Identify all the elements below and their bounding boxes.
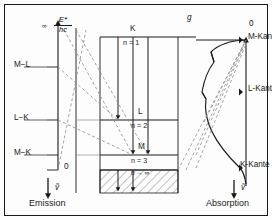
shell-n-l: n = 2 — [131, 122, 147, 129]
zero-label-right: 0 — [249, 20, 254, 28]
dashed-left-3 — [64, 30, 133, 155]
dashed-left-5 — [58, 120, 133, 155]
continuum-label: n → ∞ — [131, 170, 149, 176]
xray-level-diagram: E* hc ∞ M−L L−K M−K 0 ṽ Emission K n = 1… — [0, 0, 272, 220]
zero-label-left: 0 — [64, 163, 69, 171]
edge-marker-m — [239, 36, 243, 43]
emission-caption: Emission — [29, 199, 66, 208]
dashed-right-1 — [178, 40, 246, 170]
edge-riser-m — [211, 52, 214, 62]
infinity-tick-label: ∞ — [42, 23, 47, 29]
absorption-caption: Absorption — [206, 199, 249, 208]
tick-label-mk: M−K — [14, 149, 31, 157]
shell-n-k: n = 1 — [123, 39, 139, 46]
shell-n-m: n = 3 — [131, 157, 147, 164]
energy-axis-denominator: hc — [54, 25, 72, 34]
dashed-right-3 — [196, 44, 246, 168]
diagram-canvas — [0, 0, 272, 220]
edge-label-k: K-Kante — [240, 161, 270, 169]
tick-label-ml: M−L — [14, 61, 30, 69]
dashed-left-1 — [58, 30, 86, 170]
tick-label-lk: L−K — [14, 114, 29, 122]
absorption-curve-label: g — [187, 14, 192, 22]
dashed-right-2 — [186, 40, 246, 170]
absorption-arrow-label: ṽ — [241, 184, 245, 192]
edge-riser-l — [202, 92, 206, 99]
shell-label-k: K — [130, 25, 135, 33]
energy-axis-label: E* hc — [54, 9, 72, 34]
dashed-right-5 — [204, 44, 244, 122]
edge-riser-k — [240, 168, 246, 184]
emission-arrow-label: ṽ — [55, 184, 59, 192]
shell-label-l: L — [138, 108, 143, 116]
absorption-curve — [202, 40, 246, 168]
dashed-right-4 — [196, 46, 244, 155]
shell-label-m: M — [138, 143, 145, 151]
edge-label-l: L-Kante — [248, 85, 272, 93]
edge-marker-l — [239, 88, 243, 95]
edge-label-m: M-Kante — [248, 33, 272, 41]
energy-axis-numerator: E* — [59, 15, 67, 24]
